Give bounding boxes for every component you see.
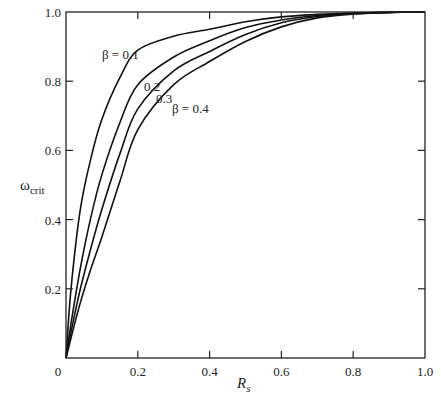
- y-axis-title: ωcrit: [20, 177, 45, 196]
- curve-beta-4: [66, 12, 425, 358]
- x-tick-label: 0.6: [273, 364, 290, 379]
- x-axis-title: Rs: [236, 375, 250, 394]
- x-tick-label: 0.2: [130, 364, 146, 379]
- x-tick-label: 1.0: [417, 364, 433, 379]
- omega-crit-chart: 00.20.40.60.81.00.20.40.60.81.0 β = 0.10…: [0, 0, 441, 403]
- y-tick-label: 0.4: [45, 213, 62, 228]
- ticks-group: [66, 12, 425, 358]
- curve-beta-3: [66, 12, 425, 358]
- curves-group: [66, 12, 425, 358]
- curve-label-3: 0.3: [156, 91, 172, 106]
- x-tick-label: 0.8: [345, 364, 361, 379]
- curve-beta-2: [66, 12, 425, 358]
- curve-label-4: β = 0.4: [172, 101, 209, 116]
- y-tick-label: 0.2: [45, 282, 61, 297]
- y-tick-label: 0.8: [45, 74, 61, 89]
- plot-frame: [66, 12, 425, 358]
- x-tick-label: 0.4: [201, 364, 218, 379]
- curve-beta-1: [66, 12, 425, 358]
- curve-label-1: β = 0.1: [102, 47, 139, 62]
- y-tick-label: 0.6: [45, 143, 62, 158]
- x-tick-label: 0: [55, 364, 62, 379]
- y-tick-label: 1.0: [45, 5, 61, 20]
